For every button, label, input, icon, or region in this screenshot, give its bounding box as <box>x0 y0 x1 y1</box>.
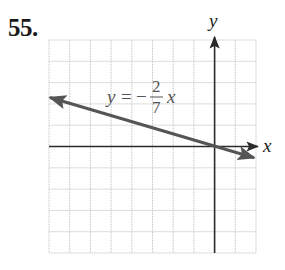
equation-variable: x <box>166 86 176 107</box>
coordinate-graph: y x y = − 2 7 x <box>0 0 285 270</box>
y-axis-label: y <box>207 10 218 31</box>
equation-numerator: 2 <box>152 77 161 96</box>
x-axis-label: x <box>262 135 272 156</box>
equation-sign: − <box>136 86 147 107</box>
equation-lhs: y <box>105 86 116 107</box>
equation-equals: = <box>121 86 132 107</box>
equation-denominator: 7 <box>152 98 161 117</box>
